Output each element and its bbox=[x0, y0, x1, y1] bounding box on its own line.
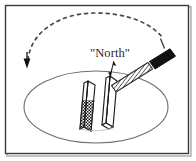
compass-diagram-svg: "North" bbox=[0, 0, 196, 161]
north-label: "North" bbox=[90, 46, 130, 60]
figure-border bbox=[6, 6, 189, 154]
figure-root: "North" bbox=[0, 0, 196, 161]
